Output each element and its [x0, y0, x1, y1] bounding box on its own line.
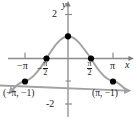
- x-tick-label-half-pi: π2: [87, 60, 92, 78]
- left-point-label: (−π, −1): [3, 89, 34, 99]
- x-tick-label-neg-pi: −π: [17, 61, 28, 71]
- y-tick-label-neg2: -2: [46, 99, 54, 109]
- x-tick-label-pi: π: [110, 61, 115, 71]
- fraction-denominator-two: 2: [43, 69, 48, 77]
- data-point-neg-pi[interactable]: [22, 78, 28, 84]
- x-tick-label-neg-half-pi: −π2: [37, 60, 48, 78]
- data-point-pi[interactable]: [110, 78, 116, 84]
- right-point-label: (π, −1): [92, 89, 118, 99]
- cosine-graph-figure: y x 2 -2 −π −π2 π2 π (−π, −1) (π, −1): [0, 0, 137, 120]
- y-axis-label: y: [62, 0, 66, 10]
- fraction-denominator-two: 2: [87, 69, 92, 77]
- y-tick-label-2: 2: [52, 9, 57, 19]
- data-point-origin-max[interactable]: [65, 33, 71, 39]
- pi-over-two-fraction: π2: [43, 60, 48, 77]
- x-axis-label: x: [125, 60, 129, 70]
- pi-over-two-fraction: π2: [87, 60, 92, 77]
